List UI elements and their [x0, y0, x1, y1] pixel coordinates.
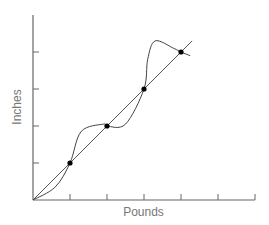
x-ticks [70, 194, 255, 200]
y-axis-label: Inches [10, 82, 24, 132]
x-axis-label: Pounds [0, 205, 269, 219]
y-ticks [33, 52, 39, 163]
chart-canvas [0, 0, 269, 225]
data-point [67, 160, 72, 165]
data-point [178, 49, 183, 54]
linear-fit-line [33, 41, 192, 200]
axes [33, 15, 255, 200]
data-point [104, 123, 109, 128]
data-point [141, 86, 146, 91]
